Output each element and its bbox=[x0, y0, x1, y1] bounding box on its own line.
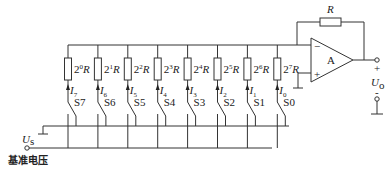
opamp-plus: + bbox=[314, 68, 320, 80]
branch-resistor bbox=[65, 58, 72, 80]
branch-resistor bbox=[244, 58, 251, 80]
branch-resistor bbox=[184, 58, 191, 80]
switch-label: S2 bbox=[224, 96, 236, 108]
feedback-wire-right bbox=[341, 22, 364, 60]
branch-resistor bbox=[214, 58, 221, 80]
switch-label: S7 bbox=[74, 96, 86, 108]
circuit-svg: R − + A + U o - U s 基准电压 20RI7S721RI6S62… bbox=[0, 0, 391, 173]
reference-terminal bbox=[25, 146, 29, 150]
switch-label: S1 bbox=[253, 96, 265, 108]
switch-label: S5 bbox=[134, 96, 146, 108]
branches: 20RI7S721RI6S622RI5S523RI4S424RI3S325RI2… bbox=[65, 45, 300, 148]
resistor-label: 26R bbox=[253, 63, 269, 75]
resistor-label: 20R bbox=[74, 63, 90, 75]
reference-voltage-label: 基准电压 bbox=[7, 154, 48, 166]
resistor-label: 24R bbox=[194, 63, 210, 75]
dac-circuit-diagram: R − + A + U o - U s 基准电压 20RI7S721RI6S62… bbox=[0, 0, 391, 173]
output-subscript: o bbox=[379, 79, 385, 91]
switch-label: S0 bbox=[283, 96, 295, 108]
resistor-label: 25R bbox=[224, 63, 240, 75]
branch-resistor bbox=[154, 58, 161, 80]
opamp-minus: − bbox=[314, 40, 320, 52]
resistor-label: 21R bbox=[104, 63, 120, 75]
reference-subscript: s bbox=[30, 135, 34, 147]
output-plus: + bbox=[374, 62, 380, 74]
opamp-label: A bbox=[327, 54, 335, 66]
branch-resistor bbox=[94, 58, 101, 80]
plus-input-wire bbox=[298, 73, 311, 88]
switch-label: S6 bbox=[104, 96, 116, 108]
feedback-resistor-label: R bbox=[326, 3, 334, 15]
feedback-resistor bbox=[320, 18, 341, 26]
branch-resistor bbox=[274, 58, 281, 80]
switch-label: S3 bbox=[194, 96, 206, 108]
output-minus: - bbox=[375, 86, 379, 98]
resistor-label: 23R bbox=[164, 63, 180, 75]
switch-label: S4 bbox=[164, 96, 176, 108]
resistor-label: 27R bbox=[283, 63, 299, 75]
branch-resistor bbox=[124, 58, 131, 80]
resistor-label: 22R bbox=[134, 63, 150, 75]
